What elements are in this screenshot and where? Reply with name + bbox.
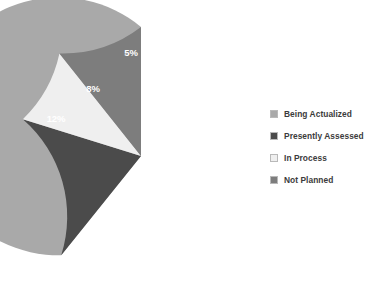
legend-swatch-icon — [270, 154, 278, 162]
legend-item-not-planned[interactable]: Not Planned — [270, 170, 384, 190]
pie-plot-area: 75% 12% 8% 5% — [0, 0, 270, 294]
legend-item-in-process[interactable]: In Process — [270, 148, 384, 168]
pie-label-presently-assessed: 12% — [47, 113, 66, 124]
pie-label-in-process: 8% — [86, 83, 100, 94]
legend-swatch-icon — [270, 132, 278, 140]
pie-label-being-actualized: 75% — [168, 152, 187, 163]
legend-label: Not Planned — [284, 175, 333, 185]
legend-item-presently-assessed[interactable]: Presently Assessed — [270, 126, 384, 146]
legend-item-being-actualized[interactable]: Being Actualized — [270, 104, 384, 124]
legend-label: In Process — [284, 153, 327, 163]
legend-swatch-icon — [270, 110, 278, 118]
pie-chart-figure: 75% 12% 8% 5% Being Actualized Presently… — [0, 0, 384, 294]
chart-legend: Being Actualized Presently Assessed In P… — [270, 104, 384, 192]
legend-label: Being Actualized — [284, 109, 352, 119]
legend-swatch-icon — [270, 176, 278, 184]
pie-svg: 75% 12% 8% 5% — [0, 0, 270, 294]
pie-label-not-planned: 5% — [124, 47, 138, 58]
pie-slices — [0, 0, 141, 255]
legend-label: Presently Assessed — [284, 131, 364, 141]
